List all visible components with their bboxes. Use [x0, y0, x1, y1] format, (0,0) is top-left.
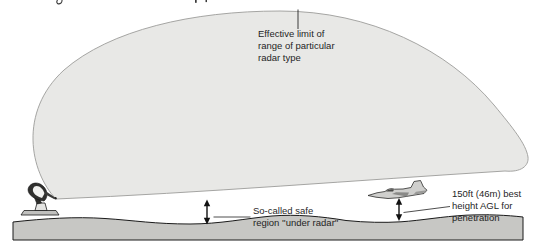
penetration-leader-line: [404, 207, 451, 213]
height-agl-arrow: [396, 198, 402, 221]
safe-region-line2: region ''under radar'': [253, 217, 338, 229]
safe-region-arrow: [204, 200, 210, 225]
penetration-height-label: 150ft (46m) best height AGL for penetrat…: [452, 188, 521, 224]
radar-diagram: Effective limit of range of particular r…: [0, 0, 552, 252]
safe-region-line1: So-called safe: [253, 205, 338, 217]
effective-limit-line2: range of particular: [258, 40, 335, 52]
safe-region-label: So-called safe region ''under radar'': [253, 205, 338, 229]
cropped-caption-fragments: [57, 0, 207, 4]
penetration-height-line1: 150ft (46m) best: [452, 188, 521, 200]
jet-aircraft-icon: [368, 181, 427, 199]
penetration-height-line3: penetration: [452, 212, 521, 224]
effective-limit-line3: radar type: [258, 52, 335, 64]
effective-limit-line1: Effective limit of: [258, 28, 335, 40]
penetration-height-line2: height AGL for: [452, 200, 521, 212]
effective-limit-label: Effective limit of range of particular r…: [258, 28, 335, 64]
